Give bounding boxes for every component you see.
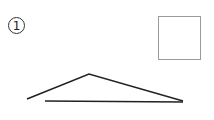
triangle-sides: [27, 74, 183, 101]
triangle-base: [45, 101, 183, 102]
triangle-shape: [0, 0, 214, 120]
